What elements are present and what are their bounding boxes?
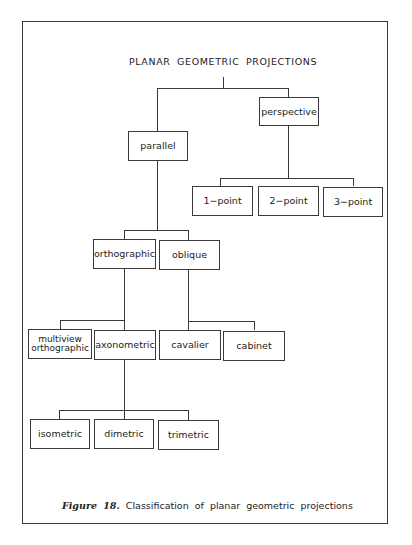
connector — [124, 230, 189, 231]
node-label: isometric — [38, 429, 82, 439]
connector — [60, 320, 125, 321]
connector — [60, 320, 61, 329]
node-label: trimetric — [168, 430, 209, 440]
connector — [188, 230, 189, 240]
caption-text: Classification of planar geometric proje… — [126, 500, 353, 511]
node-label: oblique — [172, 250, 207, 260]
node-label: cabinet — [236, 341, 271, 351]
node-label: 1−point — [203, 196, 241, 206]
node-parallel: parallel — [128, 131, 188, 161]
node-1-point: 1−point — [192, 186, 253, 216]
node-cavalier: cavalier — [159, 330, 221, 360]
connector — [288, 88, 289, 97]
figure-caption: Figure 18. Classification of planar geom… — [62, 500, 372, 511]
node-label: orthographic — [94, 249, 155, 259]
node-label: perspective — [261, 107, 317, 117]
connector — [188, 321, 255, 322]
node-dimetric: dimetric — [94, 419, 154, 449]
node-multiview-orthographic: multiview orthographic — [28, 329, 92, 359]
node-label: dimetric — [104, 429, 143, 439]
connector — [59, 410, 189, 411]
node-label: 2−point — [269, 196, 307, 206]
connector — [353, 178, 354, 186]
connector — [220, 178, 354, 179]
node-label: axonometric — [95, 340, 154, 350]
diagram-title: PLANAR GEOMETRIC PROJECTIONS — [120, 56, 326, 67]
figure-label: Figure 18. — [62, 500, 120, 511]
node-cabinet: cabinet — [223, 331, 285, 361]
node-trimetric: trimetric — [158, 420, 219, 450]
connector — [157, 161, 158, 231]
node-label-line2: orthographic — [31, 344, 89, 353]
node-orthographic: orthographic — [93, 239, 156, 269]
node-label: 3−point — [334, 197, 372, 207]
node-axonometric: axonometric — [94, 330, 156, 360]
node-oblique: oblique — [159, 240, 220, 270]
connector — [124, 230, 125, 239]
node-perspective: perspective — [259, 97, 319, 126]
connector — [254, 321, 255, 330]
node-3-point: 3−point — [323, 187, 383, 217]
connector — [59, 410, 60, 419]
connector — [288, 126, 289, 179]
connector — [220, 178, 221, 186]
node-2-point: 2−point — [258, 186, 319, 216]
connector — [157, 88, 289, 89]
node-isometric: isometric — [30, 419, 90, 449]
node-label: parallel — [140, 141, 175, 151]
node-label: cavalier — [171, 340, 209, 350]
connector — [157, 88, 158, 131]
connector — [188, 410, 189, 420]
